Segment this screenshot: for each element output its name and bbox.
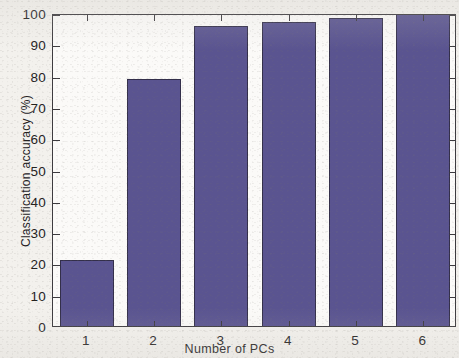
y-axis-tick-right (449, 203, 455, 204)
y-axis-tick-label: 100 (4, 7, 46, 22)
y-axis-tick (53, 234, 60, 235)
y-axis-tick-label: 0 (4, 320, 46, 335)
y-axis-tick-label: 60 (4, 132, 46, 147)
x-axis-tick-top (87, 15, 88, 21)
y-axis-tick (53, 109, 60, 110)
bar (396, 14, 450, 326)
y-axis-tick-label: 80 (4, 69, 46, 84)
bar (127, 79, 181, 326)
bar (262, 22, 316, 326)
bar (194, 26, 248, 326)
y-axis-tick-label: 30 (4, 226, 46, 241)
y-axis-tick (53, 172, 60, 173)
bar-chart-figure: Classification accuracy (%) 010203040506… (0, 0, 459, 358)
y-axis-tick-label: 10 (4, 288, 46, 303)
x-axis-tick-top (221, 15, 222, 21)
x-axis-tick-top (289, 15, 290, 21)
x-axis-tick-top (423, 15, 424, 21)
x-axis-tick (221, 321, 222, 327)
y-axis-tick-right (449, 46, 455, 47)
x-axis-tick (356, 321, 357, 327)
y-axis-tick-right (449, 234, 455, 235)
y-axis-tick-label: 90 (4, 38, 46, 53)
bar (329, 18, 383, 326)
y-axis-tick (53, 46, 60, 47)
y-axis-tick-right (449, 265, 455, 266)
y-axis-tick (53, 15, 60, 16)
x-axis-tick (154, 321, 155, 327)
y-axis-tick-label: 70 (4, 100, 46, 115)
y-axis-tick-right (449, 109, 455, 110)
y-axis-tick-right (449, 15, 455, 16)
x-axis-title: Number of PCs (0, 342, 459, 356)
y-axis-tick-right (449, 140, 455, 141)
x-axis-tick (423, 321, 424, 327)
bar (60, 260, 114, 326)
y-axis-tick-right (449, 297, 455, 298)
y-axis-tick-label: 20 (4, 257, 46, 272)
y-axis-tick (53, 78, 60, 79)
y-axis-tick (53, 203, 60, 204)
y-axis-tick (53, 297, 60, 298)
x-axis-tick-top (356, 15, 357, 21)
x-axis-tick-top (154, 15, 155, 21)
bar-series (53, 15, 455, 326)
y-axis-tick (53, 140, 60, 141)
y-axis-tick-right (449, 172, 455, 173)
y-axis-tick-label: 50 (4, 163, 46, 178)
plot-area (52, 14, 456, 327)
y-axis-tick (53, 265, 60, 266)
y-axis-tick-label: 40 (4, 194, 46, 209)
y-axis-tick-right (449, 78, 455, 79)
x-axis-tick (289, 321, 290, 327)
x-axis-tick (87, 321, 88, 327)
